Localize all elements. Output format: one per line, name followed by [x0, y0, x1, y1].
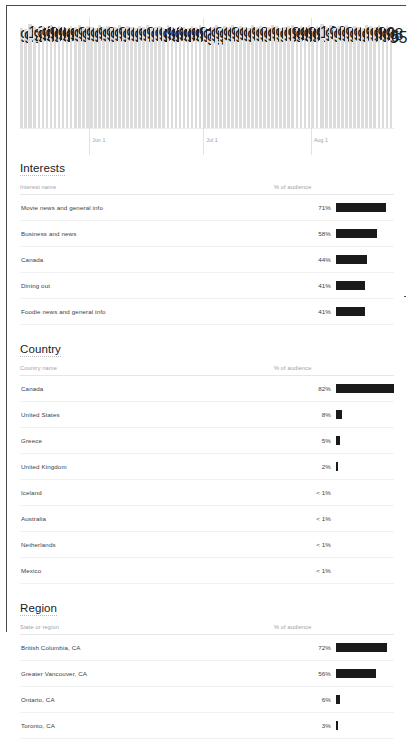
chart-bar: 98 [337, 26, 340, 128]
chart-bar: 98 [106, 26, 109, 128]
section-region: RegionState or region% of audienceBritis… [20, 584, 394, 739]
table-row[interactable]: United States8% [20, 402, 394, 428]
row-percent-value: 6% [297, 696, 336, 703]
chart-bar: 99 [98, 25, 101, 128]
table-row[interactable]: United Kingdom2% [20, 454, 394, 480]
row-bar [336, 255, 367, 264]
table-row[interactable]: Business and news58% [20, 221, 394, 247]
table-row[interactable]: Canada44% [20, 247, 394, 273]
chart-bar: 96 [134, 28, 137, 128]
chart-bar: 98 [42, 26, 45, 128]
row-label: Canada [20, 385, 297, 392]
row-label: Iceland [20, 489, 297, 496]
row-bar-cell [336, 229, 394, 238]
row-bar-cell [336, 721, 394, 730]
chart-bar: 96 [20, 28, 23, 128]
row-percent-value: 56% [297, 670, 336, 677]
row-percent-value: 41% [297, 308, 336, 315]
table-row[interactable]: Ontario, CA6% [20, 687, 394, 713]
chart-bar: 95 [24, 29, 27, 128]
chart-bar: 97 [142, 27, 145, 128]
chart-bar: 97 [325, 27, 328, 128]
row-percent-value: 2% [297, 463, 336, 470]
chart-bar: 96 [54, 28, 57, 128]
table-row[interactable]: Toronto, CA3% [20, 713, 394, 739]
table-row[interactable]: Greece5% [20, 428, 394, 454]
column-header-row: Country name% of audience [20, 358, 394, 376]
row-label: United States [20, 411, 297, 418]
row-label: United Kingdom [20, 463, 297, 470]
column-header-name: State or region [20, 624, 274, 630]
chart-bar: 96 [263, 28, 266, 128]
timeline-chart: 9695100979698979996989796989799969897969… [20, 24, 394, 144]
chart-bar: 99 [308, 25, 311, 128]
row-bar-cell [336, 462, 394, 471]
chart-bar: 99 [167, 25, 170, 128]
table-row[interactable]: British Columbia, CA72% [20, 635, 394, 661]
chart-bar: 96 [219, 28, 222, 128]
table-row[interactable]: Dining out41% [20, 273, 394, 299]
chart-bar: 97 [62, 27, 65, 128]
chart-bar: 97 [154, 27, 157, 128]
column-header-percent: % of audience [274, 365, 394, 371]
row-bar [336, 384, 394, 393]
row-percent-value: 44% [297, 256, 336, 263]
row-label: Greater Vancouver, CA [20, 670, 297, 677]
chart-bar: 98 [58, 26, 61, 128]
section-title: Interests [20, 162, 65, 176]
chart-bar: 99 [199, 25, 202, 128]
chart-bar: 96 [38, 28, 41, 128]
chart-bar: 97 [130, 27, 133, 128]
row-bar [336, 203, 386, 212]
table-row[interactable]: Mexico< 1% [20, 558, 394, 584]
section-title: Country [20, 343, 61, 357]
chart-bar: 97 [195, 27, 198, 128]
row-bar [336, 462, 338, 471]
chart-bar: 99 [329, 25, 332, 128]
row-percent-value: < 1% [297, 515, 336, 522]
chart-bar: 98 [126, 26, 129, 128]
table-row[interactable]: Australia< 1% [20, 506, 394, 532]
chart-bar: 98 [191, 26, 194, 128]
chart-bar: 97 [283, 27, 286, 128]
table-row[interactable]: Foodie news and general info41% [20, 299, 394, 325]
chart-bar: 96 [203, 28, 206, 128]
chart-bar: 98 [287, 26, 290, 128]
chart-bar: 96 [122, 28, 125, 128]
chart-bar: 97 [90, 27, 93, 128]
chart-bar: 98 [86, 26, 89, 128]
chart-bar: 99 [365, 25, 368, 128]
chart-bar: 96 [382, 28, 385, 128]
row-label: Greece [20, 437, 297, 444]
chart-bar: 97 [211, 27, 214, 128]
chart-bar: 96 [187, 28, 190, 128]
table-row[interactable]: Greater Vancouver, CA56% [20, 661, 394, 687]
row-percent-value: 72% [297, 644, 336, 651]
chart-bar: 98 [275, 26, 278, 128]
row-bar-cell [336, 695, 394, 704]
row-bar-cell [336, 203, 394, 212]
table-row[interactable]: Iceland< 1% [20, 480, 394, 506]
chart-bar: 97 [341, 27, 344, 128]
table-row[interactable]: Netherlands< 1% [20, 532, 394, 558]
row-bar-cell [336, 410, 394, 419]
chart-bar: 97 [357, 27, 360, 128]
chart-bar: 99 [231, 25, 234, 128]
chart-tick-label: Aug 1 [311, 137, 328, 143]
table-row[interactable]: Movie news and general info71% [20, 195, 394, 221]
table-row[interactable]: Canada82% [20, 376, 394, 402]
row-bar [336, 307, 365, 316]
section-country: CountryCountry name% of audienceCanada82… [20, 325, 394, 584]
chart-bar: 93 [207, 31, 210, 128]
row-label: Business and news [20, 230, 297, 237]
row-percent-value: 5% [297, 437, 336, 444]
chart-axis-line [20, 128, 394, 129]
chart-bar: 97 [255, 27, 258, 128]
row-percent-value: 58% [297, 230, 336, 237]
chart-bar: 97 [304, 27, 307, 128]
chart-bar: 98 [179, 26, 182, 128]
chart-bar: 98 [223, 26, 226, 128]
chart-bar: 96 [333, 28, 336, 128]
column-header-percent: % of audience [274, 624, 394, 630]
chart-bar: 99 [146, 25, 149, 128]
